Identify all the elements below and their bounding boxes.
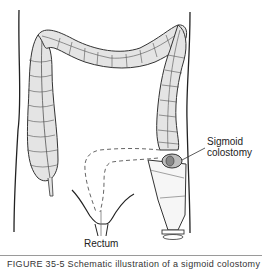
transverse-colon: [38, 25, 187, 68]
sigmoid-leader-line: [182, 148, 205, 160]
ascending-colon: [27, 35, 58, 196]
rectum-dashed: [85, 149, 160, 213]
sigmoid-label-line1: Sigmoid: [207, 136, 252, 147]
pelvic-outline: [72, 190, 134, 224]
figure-caption: FIGURE 35-5 Schematic illustration of a …: [7, 259, 260, 269]
sigmoid-colostomy-label: Sigmoid colostomy: [207, 136, 252, 158]
torso-left-outline: [14, 10, 20, 232]
colostomy-pouch: [148, 148, 205, 240]
caption-divider: [0, 255, 262, 256]
torso-right-outline: [187, 12, 190, 233]
sigmoid-label-line2: colostomy: [207, 147, 252, 158]
rectum-label: Rectum: [84, 238, 118, 249]
